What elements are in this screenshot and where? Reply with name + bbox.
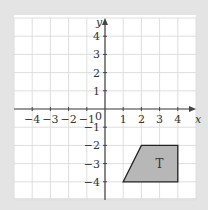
x-tick-label: −4 <box>24 113 40 126</box>
y-tick-label: −2 <box>84 139 100 152</box>
x-tick-label: 3 <box>156 113 163 126</box>
x-tick-label: −2 <box>60 113 76 126</box>
y-tick-label: −4 <box>84 176 100 189</box>
x-tick-label: 4 <box>174 113 181 126</box>
y-tick-label: 3 <box>93 48 100 61</box>
y-tick-label: −1 <box>84 121 100 134</box>
shape-label: T <box>156 157 164 171</box>
coordinate-grid: T −4−3−2−112344321−1−2−3−40xy <box>0 0 208 210</box>
y-tick-label: −3 <box>84 158 100 171</box>
y-tick-label: 2 <box>93 67 100 80</box>
origin-label: 0 <box>95 110 102 123</box>
x-tick-label: −3 <box>42 113 58 126</box>
x-axis-label: x <box>195 113 202 126</box>
x-tick-label: 2 <box>138 113 145 126</box>
y-tick-label: 4 <box>93 30 100 43</box>
y-axis-label: y <box>95 16 103 29</box>
x-tick-label: 1 <box>120 113 127 126</box>
y-tick-label: 1 <box>93 85 100 98</box>
